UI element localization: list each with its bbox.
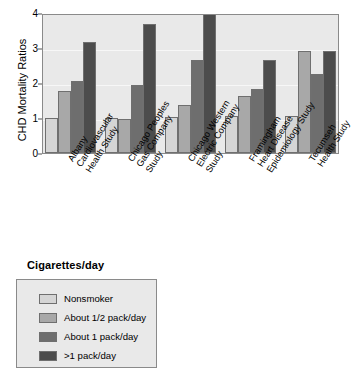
legend-item[interactable]: About 1/2 pack/day [39,311,146,324]
legend-swatch-icon [39,313,57,323]
legend-item-label: >1 pack/day [64,351,116,361]
legend-box: NonsmokerAbout 1/2 pack/dayAbout 1 pack/… [16,279,157,368]
x-axis-tick-labels: AlbanyCardiovascularHealth StudyChicago … [42,154,339,246]
legend-item-label: Nonsmoker [64,294,113,304]
legend-swatch-icon [39,351,57,361]
legend-item[interactable]: >1 pack/day [39,349,116,362]
legend-item-label: About 1/2 pack/day [64,313,146,323]
legend-swatch-icon [39,294,57,304]
bar [45,118,58,153]
legend-title: Cigarettes/day [27,259,104,271]
legend-item-label: About 1 pack/day [64,332,138,342]
legend-swatch-icon [39,332,57,342]
legend-item[interactable]: About 1 pack/day [39,330,138,343]
y-axis-title: CHD Mortality Ratios [16,30,28,150]
bar [58,91,71,153]
legend-item[interactable]: Nonsmoker [39,292,113,305]
